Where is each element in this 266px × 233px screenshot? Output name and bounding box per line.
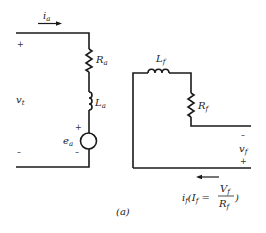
armature-circuit: ia Ra La + – ea + vt –: [16, 10, 108, 167]
field-resistor-icon: [188, 93, 194, 117]
figure-caption: (a): [116, 206, 130, 217]
armature-resistor-label: Ra: [95, 54, 108, 67]
armature-emf-label: ea: [63, 135, 73, 148]
fraction-numerator: Vf: [220, 183, 231, 196]
terminal-voltage-label: vt: [16, 94, 25, 107]
armature-current-label: ia: [43, 10, 50, 23]
emf-minus-sign: –: [75, 148, 79, 157]
field-right-wire: [191, 117, 251, 126]
field-inductor-label: Lf: [155, 53, 167, 66]
field-inductor-icon: [148, 69, 169, 73]
armature-top-wire: [16, 33, 89, 49]
field-voltage-label: vf: [239, 143, 249, 156]
fraction-denominator: Rf: [218, 198, 231, 211]
armature-inductor-icon: [89, 92, 92, 110]
terminal-plus-sign: +: [17, 40, 24, 49]
field-voltage-plus-sign: +: [240, 157, 247, 166]
field-resistor-label: Rf: [197, 100, 210, 113]
armature-emf-source-icon: [81, 133, 97, 149]
field-voltage-minus-sign: –: [241, 131, 245, 140]
field-current-arrow-icon: [196, 175, 219, 180]
field-circuit: Lf Rf – vf + if(If = Vf Rf ): [133, 53, 251, 211]
field-current-expression: if(If =: [182, 192, 210, 205]
field-left-wire: [133, 73, 148, 168]
terminal-minus-sign: –: [17, 148, 21, 157]
armature-inductor-label: La: [94, 97, 106, 110]
armature-resistor-icon: [86, 49, 92, 72]
dc-machine-equivalent-circuit: ia Ra La + – ea + vt – Lf: [0, 0, 266, 233]
emf-plus-sign: +: [75, 123, 82, 132]
expression-close-paren: ): [234, 192, 239, 203]
